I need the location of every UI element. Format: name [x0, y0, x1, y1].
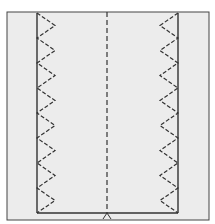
stitch-diagram [0, 0, 215, 224]
